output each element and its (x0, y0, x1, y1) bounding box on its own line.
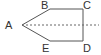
pentagon-diagram: A B C D E (0, 0, 101, 55)
vertex-label-e: E (42, 42, 49, 54)
vertex-label-c: C (83, 0, 91, 11)
vertex-label-a: A (5, 19, 13, 31)
vertex-label-d: D (83, 42, 91, 54)
vertex-label-b: B (41, 0, 48, 11)
